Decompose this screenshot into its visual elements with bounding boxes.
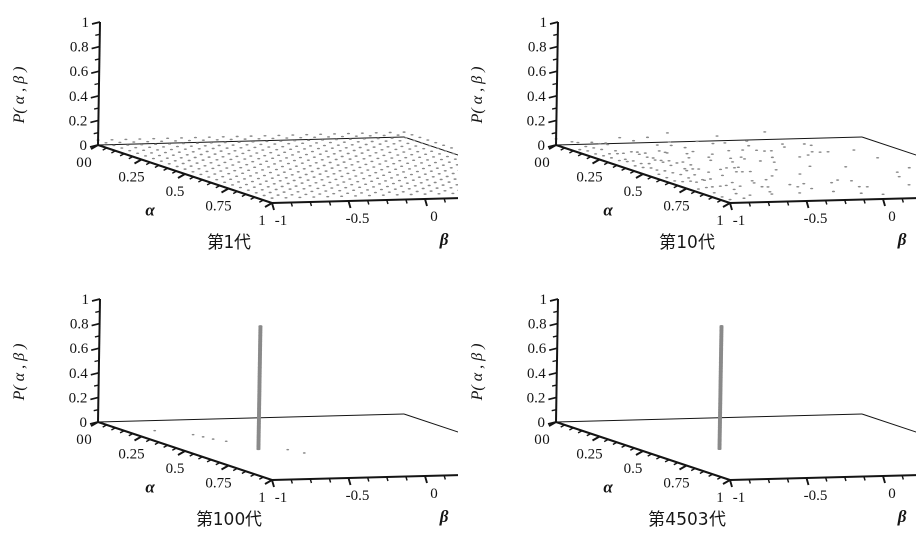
panel-gen-10: 第10代 [458,0,916,277]
panel-gen-100: 第100代 [0,277,458,554]
panel-caption-gen-10: 第10代 [458,228,916,253]
figure-3d-panels: 第1代 第10代 第100代 第4503代 [0,0,916,555]
panel-caption-gen-4503: 第4503代 [458,505,916,530]
panel-caption-gen-100: 第100代 [0,505,458,530]
panel-caption-gen-1: 第1代 [0,228,458,253]
panel-gen-4503: 第4503代 [458,277,916,554]
panel-gen-1: 第1代 [0,0,458,277]
